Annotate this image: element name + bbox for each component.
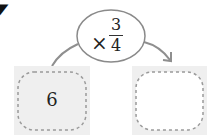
fraction-numerator: 3 [111,15,121,34]
result-value[interactable] [132,89,207,111]
connector-arc-out [144,42,170,60]
multiply-symbol: × [91,31,108,55]
fraction-denominator: 4 [111,36,121,55]
start-value: 6 [14,89,90,110]
connector-arc-in [52,44,78,66]
fraction: 3 4 [109,17,123,54]
operator-label: × 3 4 [91,17,131,61]
